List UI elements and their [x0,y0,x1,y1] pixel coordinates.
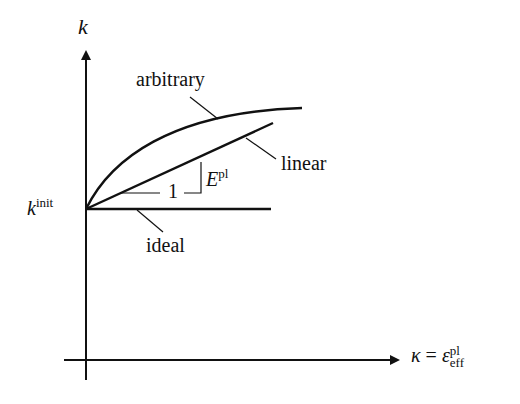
arbitrary-label: arbitrary [136,68,205,91]
origin-label: kinit [27,195,53,220]
linear-curve [86,123,273,209]
x-axis-label: κ = εpleff [411,344,464,369]
x-axis-sub: eff [450,357,464,369]
ideal-leader [137,210,163,232]
arbitrary-leader [190,97,218,119]
linear-label: linear [281,152,327,175]
slope-triangle-rise [184,162,201,193]
linear-leader [246,138,276,159]
y-axis-label: k [78,14,88,40]
x-axis-lhs: κ [411,344,421,366]
slope-rise-label: Epl [206,166,228,191]
slope-run-label: 1 [168,180,178,203]
origin-base: k [27,197,36,219]
slope-rise-base: E [206,168,218,190]
slope-rise-sup: pl [218,166,228,181]
origin-sup: init [36,195,53,210]
x-axis-eq: = [421,344,442,366]
ideal-label: ideal [146,234,185,257]
x-axis-symbol: ε [442,344,450,366]
